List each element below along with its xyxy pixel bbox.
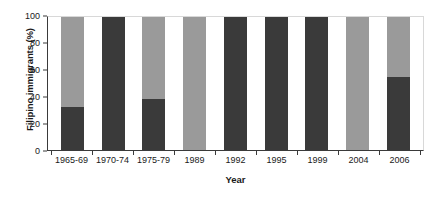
bar-column[interactable] bbox=[142, 17, 165, 150]
bar-segment-dark bbox=[61, 107, 84, 150]
bar-column[interactable] bbox=[61, 17, 84, 150]
bar-column[interactable] bbox=[346, 17, 369, 150]
x-axis-tick-label: 1999 bbox=[300, 156, 336, 166]
x-axis-tick-mark bbox=[379, 151, 380, 155]
bar-segment-dark bbox=[305, 17, 328, 150]
x-axis-tick-label: 1965-69 bbox=[54, 156, 90, 166]
bar-segment-dark bbox=[142, 99, 165, 150]
y-axis-tick-label: 60 bbox=[30, 66, 43, 75]
x-axis-tick-label: 1992 bbox=[218, 156, 254, 166]
bar-column[interactable] bbox=[102, 17, 125, 150]
x-axis-tick-mark bbox=[92, 151, 93, 155]
bar-segment-light bbox=[142, 17, 165, 99]
y-axis-tick-mark bbox=[43, 96, 47, 97]
y-axis-tick-mark bbox=[43, 123, 47, 124]
x-axis-tick-label: 1995 bbox=[259, 156, 295, 166]
y-axis-tick-label: 40 bbox=[30, 93, 43, 102]
y-axis-tick-label: 100 bbox=[25, 12, 43, 21]
bar-column[interactable] bbox=[305, 17, 328, 150]
bar-segment-dark bbox=[102, 17, 125, 150]
bar-column[interactable] bbox=[224, 17, 247, 150]
y-axis-tick-mark bbox=[43, 42, 47, 43]
y-axis-tick-label: 80 bbox=[30, 39, 43, 48]
x-axis-tick-mark bbox=[256, 151, 257, 155]
y-axis-tick: 40 bbox=[0, 93, 47, 102]
y-axis-tick-mark bbox=[43, 69, 47, 70]
x-axis-tick-mark bbox=[51, 151, 52, 155]
x-axis-tick-label: 2006 bbox=[382, 156, 418, 166]
x-axis-tick-label: 1989 bbox=[177, 156, 213, 166]
x-axis-tick-mark bbox=[420, 151, 421, 155]
y-axis-tick: 20 bbox=[0, 120, 47, 129]
y-axis-tick: 0 bbox=[0, 147, 47, 156]
y-axis-tick: 100 bbox=[0, 12, 47, 21]
x-axis-tick-mark bbox=[174, 151, 175, 155]
y-axis-title: Filipino immigrants (%) bbox=[24, 5, 35, 155]
x-axis-tick-label: 2004 bbox=[341, 156, 377, 166]
y-axis-tick-mark bbox=[43, 15, 47, 16]
x-axis-tick-mark bbox=[338, 151, 339, 155]
x-axis-tick-mark bbox=[133, 151, 134, 155]
bar-column[interactable] bbox=[265, 17, 288, 150]
chart-container: Filipino immigrants (%) 020406080100 196… bbox=[0, 0, 427, 197]
x-axis-tick-label: 1970-74 bbox=[95, 156, 131, 166]
x-axis-tick-label: 1975-79 bbox=[136, 156, 172, 166]
x-axis-title: Year bbox=[47, 174, 424, 185]
bar-column[interactable] bbox=[183, 17, 206, 150]
x-axis-labels: 1965-691970-741975-791989199219951999200… bbox=[47, 156, 424, 166]
bar-column[interactable] bbox=[387, 17, 410, 150]
y-axis-tick-label: 0 bbox=[35, 147, 43, 156]
bar-segment-dark bbox=[265, 17, 288, 150]
bar-segment-light bbox=[387, 17, 410, 77]
plot-area bbox=[47, 16, 424, 151]
x-axis-tick-mark bbox=[215, 151, 216, 155]
y-axis-tick: 80 bbox=[0, 39, 47, 48]
bar-segment-light bbox=[183, 17, 206, 150]
y-axis-tick: 60 bbox=[0, 66, 47, 75]
bar-group bbox=[48, 17, 423, 150]
x-axis-tick-mark bbox=[297, 151, 298, 155]
y-axis-tick-label: 20 bbox=[30, 120, 43, 129]
bar-segment-light bbox=[346, 17, 369, 150]
bar-segment-dark bbox=[387, 77, 410, 150]
bar-segment-dark bbox=[224, 17, 247, 150]
bar-segment-light bbox=[61, 17, 84, 107]
